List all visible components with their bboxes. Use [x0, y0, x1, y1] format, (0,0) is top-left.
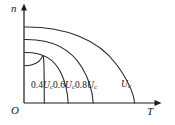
y-axis-label: n [11, 3, 17, 14]
x-axis-label: T [147, 106, 153, 117]
curve-label-0-4-uc-symbol: U [43, 80, 50, 90]
curve-label-0-6-uc-symbol: U [65, 80, 72, 90]
curve-label-uc-subscript: c [128, 82, 131, 89]
y-axis-arrowhead [21, 4, 27, 11]
origin-label: O [11, 105, 19, 116]
curve-0-6-uc [25, 52, 69, 103]
curve-0-8-uc [25, 39, 94, 103]
curve-label-uc: Uc [121, 80, 131, 90]
x-axis-arrowhead [155, 100, 162, 106]
curve-label-0-6-uc-coefficient: 0.6 [53, 80, 65, 90]
curve-label-0-8-uc-coefficient: 0.8 [75, 80, 87, 90]
curve-label-0-6-uc: 0.6Uc [53, 81, 75, 91]
curve-label-0-4-uc-coefficient: 0.4 [31, 80, 43, 90]
curve-uc [25, 27, 135, 103]
speed-torque-characteristic-figure: n T O 0.4Uc 0.6Uc 0.8Uc Uc [0, 0, 175, 125]
curve-label-0-8-uc-subscript: c [94, 83, 97, 90]
curve-label-0-8-uc-symbol: U [87, 80, 94, 90]
curve-label-0-8-uc: 0.8Uc [75, 81, 97, 91]
curve-label-0-4-uc: 0.4Uc [31, 81, 53, 91]
curve-label-uc-symbol: U [121, 79, 128, 89]
